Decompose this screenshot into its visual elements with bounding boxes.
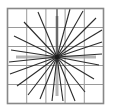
radiating-lines-figure — [0, 0, 125, 111]
center-point-group — [55, 55, 59, 59]
figure-container — [0, 0, 125, 111]
center-dot-icon — [55, 55, 59, 59]
